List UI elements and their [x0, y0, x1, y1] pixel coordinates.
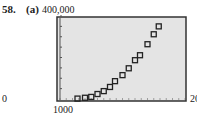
x-tick [110, 99, 111, 100]
x-tick [160, 99, 161, 100]
x-tick [147, 99, 148, 100]
x-tick [178, 99, 179, 100]
x-tick [72, 99, 73, 100]
plot-area [57, 17, 186, 101]
x-tick [128, 99, 129, 100]
x-tick [60, 99, 61, 100]
x-tick [66, 99, 67, 100]
x-tick [135, 99, 136, 100]
x-tick [153, 99, 154, 100]
x-tick [97, 99, 98, 100]
x-tick [166, 99, 167, 100]
x-tick [116, 99, 117, 100]
x-tick [85, 99, 86, 100]
x-tick [103, 99, 104, 100]
x-tick [122, 99, 123, 100]
x-tick [185, 99, 186, 100]
scatter-plot [0, 0, 197, 117]
x-tick [78, 99, 79, 100]
x-tick [172, 99, 173, 100]
x-tick [141, 99, 142, 100]
